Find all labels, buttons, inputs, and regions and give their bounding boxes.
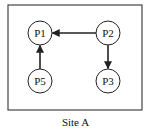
nodes-group: P1P2P5P3 (28, 21, 120, 93)
node-label: P3 (102, 75, 114, 87)
wait-for-graph-diagram: P1P2P5P3 (0, 0, 151, 135)
node-p3: P3 (96, 69, 120, 93)
node-p1: P1 (28, 21, 52, 45)
node-label: P5 (34, 75, 46, 87)
node-label: P1 (34, 27, 46, 39)
node-label: P2 (102, 27, 114, 39)
diagram-caption: Site A (0, 116, 151, 128)
site-frame (8, 5, 142, 110)
node-p2: P2 (96, 21, 120, 45)
node-p5: P5 (28, 69, 52, 93)
